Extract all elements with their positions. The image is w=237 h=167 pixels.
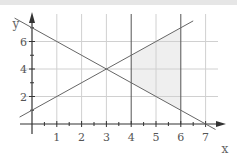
x-tick-label: 6 xyxy=(177,131,184,144)
x-tick-label: 1 xyxy=(53,131,60,144)
y-tick-labels: 2 4 6 xyxy=(20,36,27,104)
y-axis-arrow xyxy=(29,12,35,23)
y-tick-label: 4 xyxy=(20,63,27,76)
x-tick-label: 4 xyxy=(128,131,135,144)
x-tick-label: 3 xyxy=(103,131,110,144)
coordinate-plot: 1 2 3 4 5 6 7 2 4 6 x y xyxy=(0,0,237,167)
line-descending xyxy=(15,18,216,129)
x-axis-arrow xyxy=(216,121,226,127)
y-tick-label: 6 xyxy=(20,36,27,49)
x-axis-label: x xyxy=(222,142,229,156)
y-axis-label: y xyxy=(12,17,20,31)
x-tick-label: 2 xyxy=(78,131,85,144)
x-tick-labels: 1 2 3 4 5 6 7 xyxy=(53,131,209,144)
y-tick-label: 2 xyxy=(20,91,27,104)
x-tick-label: 5 xyxy=(153,131,160,144)
grid xyxy=(22,14,218,124)
x-tick-label: 7 xyxy=(202,131,209,144)
